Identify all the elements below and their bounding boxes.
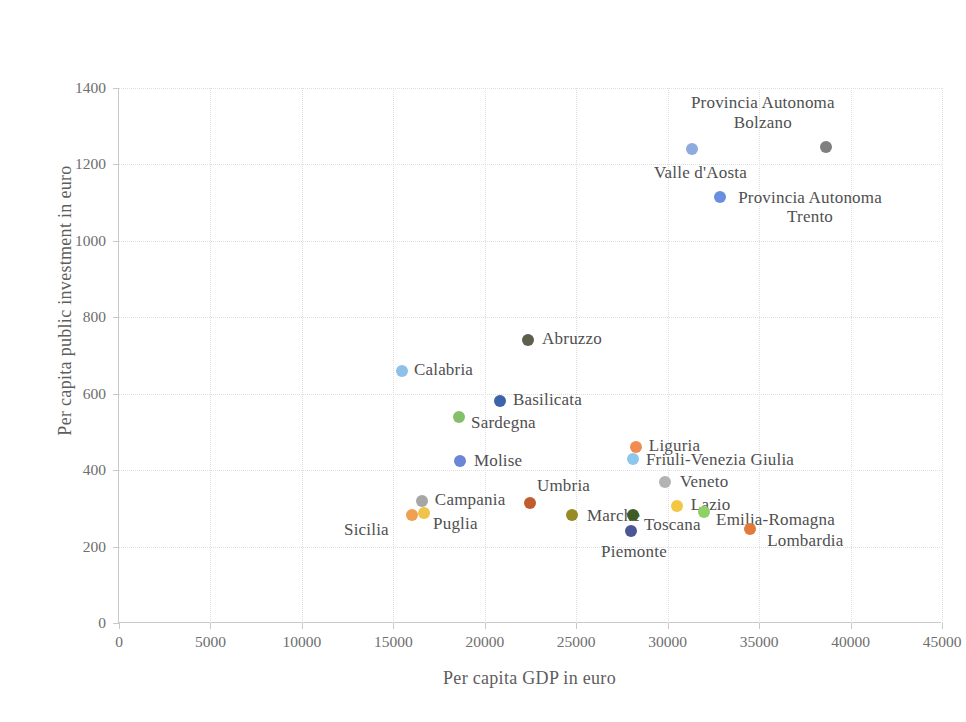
data-point-label-line: Bolzano bbox=[691, 113, 835, 133]
data-point-label: Puglia bbox=[433, 514, 478, 533]
x-tick-label: 10000 bbox=[283, 633, 322, 651]
gridline-vertical bbox=[393, 88, 394, 623]
x-tick-mark bbox=[210, 623, 211, 629]
data-point-marker[interactable] bbox=[453, 411, 465, 423]
data-point-label-line: Abruzzo bbox=[542, 329, 602, 348]
x-tick-mark bbox=[759, 623, 760, 629]
data-point-marker[interactable] bbox=[686, 143, 698, 155]
scatter-chart-figure: Per capita public investment in euro 020… bbox=[0, 0, 966, 722]
y-axis-title-container: Per capita public investment in euro bbox=[30, 90, 56, 590]
data-point-label-line: Basilicata bbox=[513, 390, 582, 409]
x-tick-label: 5000 bbox=[195, 633, 226, 651]
x-tick-label: 30000 bbox=[648, 633, 687, 651]
data-point-marker[interactable] bbox=[627, 453, 639, 465]
data-point-label-line: Piemonte bbox=[601, 542, 667, 561]
data-point-label: Calabria bbox=[414, 360, 473, 379]
data-point-label: Molise bbox=[474, 451, 522, 470]
gridline-vertical bbox=[485, 88, 486, 623]
x-tick-mark bbox=[393, 623, 394, 629]
data-point-marker[interactable] bbox=[524, 497, 536, 509]
data-point-label-line: Trento bbox=[738, 207, 882, 227]
x-tick-mark bbox=[119, 623, 120, 629]
data-point-label: Emilia-Romagna bbox=[716, 510, 835, 529]
x-tick-mark bbox=[942, 623, 943, 629]
data-point-marker[interactable] bbox=[820, 141, 832, 153]
gridline-horizontal bbox=[119, 88, 942, 89]
y-tick-label: 600 bbox=[83, 385, 119, 403]
x-tick-label: 45000 bbox=[923, 633, 962, 651]
data-point-label-line: Provincia Autonoma bbox=[738, 188, 882, 208]
gridline-horizontal bbox=[119, 317, 942, 318]
data-point-label: Sardegna bbox=[471, 413, 536, 432]
data-point-marker[interactable] bbox=[659, 476, 671, 488]
data-point-label-line: Campania bbox=[435, 490, 506, 509]
data-point-marker[interactable] bbox=[494, 395, 506, 407]
data-point-label-line: Sardegna bbox=[471, 413, 536, 432]
y-axis-title: Per capita public investment in euro bbox=[55, 66, 76, 536]
data-point-label: Basilicata bbox=[513, 390, 582, 409]
gridline-horizontal bbox=[119, 470, 942, 471]
data-point-label-line: Provincia Autonoma bbox=[691, 93, 835, 113]
y-tick-label: 0 bbox=[98, 614, 119, 632]
x-tick-mark bbox=[576, 623, 577, 629]
data-point-label: Abruzzo bbox=[542, 329, 602, 348]
x-tick-label: 35000 bbox=[740, 633, 779, 651]
data-point-marker[interactable] bbox=[714, 191, 726, 203]
y-tick-label: 1400 bbox=[75, 79, 119, 97]
data-point-label-line: Sicilia bbox=[344, 520, 389, 539]
data-point-marker[interactable] bbox=[671, 500, 683, 512]
data-point-label: Veneto bbox=[680, 472, 728, 491]
data-point-marker[interactable] bbox=[630, 441, 642, 453]
gridline-vertical bbox=[759, 88, 760, 623]
gridline-horizontal bbox=[119, 164, 942, 165]
data-point-label-line: Toscana bbox=[644, 515, 701, 534]
data-point-label-line: Umbria bbox=[537, 476, 590, 495]
data-point-marker[interactable] bbox=[627, 509, 639, 521]
x-tick-label: 0 bbox=[115, 633, 123, 651]
data-point-marker[interactable] bbox=[566, 509, 578, 521]
gridline-horizontal bbox=[119, 241, 942, 242]
x-tick-mark bbox=[851, 623, 852, 629]
data-point-label-line: Emilia-Romagna bbox=[716, 510, 835, 529]
data-point-marker[interactable] bbox=[406, 509, 418, 521]
x-tick-mark bbox=[668, 623, 669, 629]
data-point-marker[interactable] bbox=[416, 495, 428, 507]
data-point-label: Piemonte bbox=[601, 542, 667, 561]
data-point-label-line: Veneto bbox=[680, 472, 728, 491]
x-tick-label: 25000 bbox=[557, 633, 596, 651]
y-tick-label: 800 bbox=[83, 308, 119, 326]
gridline-vertical bbox=[942, 88, 943, 623]
data-point-label: Sicilia bbox=[344, 520, 389, 539]
gridline-vertical bbox=[210, 88, 211, 623]
y-tick-label: 1200 bbox=[75, 155, 119, 173]
gridline-vertical bbox=[576, 88, 577, 623]
data-point-label-line: Molise bbox=[474, 451, 522, 470]
data-point-marker[interactable] bbox=[522, 334, 534, 346]
x-tick-mark bbox=[485, 623, 486, 629]
x-axis-title: Per capita GDP in euro bbox=[118, 668, 941, 689]
data-point-marker[interactable] bbox=[698, 506, 710, 518]
data-point-marker[interactable] bbox=[744, 523, 756, 535]
y-tick-label: 200 bbox=[83, 538, 119, 556]
data-point-label: Provincia AutonomaBolzano bbox=[691, 93, 835, 132]
x-tick-mark bbox=[302, 623, 303, 629]
data-point-label-line: Friuli-Venezia Giulia bbox=[646, 450, 794, 469]
data-point-marker[interactable] bbox=[418, 507, 430, 519]
data-point-label-line: Valle d'Aosta bbox=[654, 163, 747, 182]
data-point-label: Provincia AutonomaTrento bbox=[738, 188, 882, 227]
data-point-marker[interactable] bbox=[396, 365, 408, 377]
data-point-label: Valle d'Aosta bbox=[654, 163, 747, 182]
data-point-label: Lombardia bbox=[767, 531, 843, 550]
data-point-label: Campania bbox=[435, 490, 506, 509]
plot-area: 0200400600800100012001400050001000015000… bbox=[118, 88, 941, 623]
data-point-marker[interactable] bbox=[625, 525, 637, 537]
y-tick-label: 1000 bbox=[75, 232, 119, 250]
gridline-vertical bbox=[302, 88, 303, 623]
data-point-label-line: Lombardia bbox=[767, 531, 843, 550]
data-point-label: Toscana bbox=[644, 515, 701, 534]
data-point-label-line: Puglia bbox=[433, 514, 478, 533]
y-tick-label: 400 bbox=[83, 461, 119, 479]
data-point-marker[interactable] bbox=[454, 455, 466, 467]
x-tick-label: 15000 bbox=[374, 633, 413, 651]
x-tick-label: 20000 bbox=[465, 633, 504, 651]
